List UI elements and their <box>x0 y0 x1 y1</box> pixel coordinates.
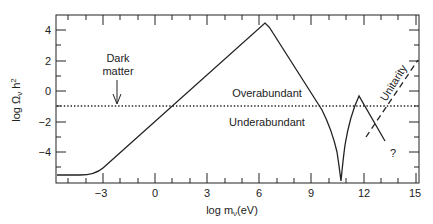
x-tick-label: 15 <box>409 187 421 199</box>
y-tick-label: 2 <box>45 55 51 67</box>
x-tick-label: 6 <box>256 187 262 199</box>
x-tick-label: 0 <box>152 187 158 199</box>
y-tick-label: −4 <box>38 146 51 158</box>
x-tick-label: 3 <box>204 187 210 199</box>
x-tick-label: 9 <box>308 187 314 199</box>
x-axis-title: log mν(eV) <box>206 204 258 218</box>
y-axis-title: log Ων h2 <box>9 78 24 122</box>
matter-label: matter <box>102 65 134 77</box>
relic-density-chart: 4 2 0 −2 −4 −3 0 3 6 9 12 15 log mν(eV) … <box>0 0 433 224</box>
x-tick-labels: −3 0 3 6 9 12 15 <box>95 187 421 199</box>
y-tick-label: 0 <box>45 85 51 97</box>
y-tick-label: −2 <box>38 116 51 128</box>
overabundant-label: Overabundant <box>232 87 302 99</box>
x-axis-ticks <box>68 15 416 183</box>
x-tick-label: 12 <box>358 187 370 199</box>
plot-frame <box>56 15 419 183</box>
underabundant-label: Underabundant <box>229 116 305 128</box>
y-tick-label: 4 <box>45 24 51 36</box>
x-tick-label: −3 <box>95 187 108 199</box>
dark-label: Dark <box>106 52 130 64</box>
relic-density-curve <box>57 23 385 181</box>
unitarity-dashed-line <box>366 60 418 137</box>
y-tick-labels: 4 2 0 −2 −4 <box>38 24 51 158</box>
unitarity-label: Unitarity <box>378 62 410 103</box>
question-label: ? <box>390 147 396 159</box>
dark-matter-arrow <box>113 80 121 104</box>
